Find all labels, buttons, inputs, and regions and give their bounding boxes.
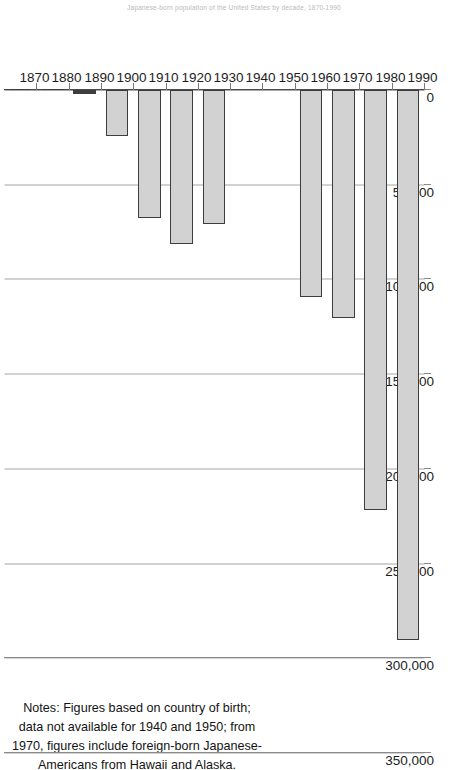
value-axis-tick-label: 250,000 [354, 564, 434, 579]
value-axis-tick [424, 563, 431, 564]
value-axis-tick [424, 184, 431, 185]
page-title: Japanese-born population of the United S… [127, 4, 341, 11]
bar [73, 90, 96, 94]
bar [41, 89, 64, 91]
bar [364, 90, 387, 510]
value-axis-tick [424, 89, 431, 90]
value-axis-tick [424, 752, 431, 753]
bar [170, 90, 193, 244]
bar [9, 89, 32, 91]
value-axis-tick [424, 468, 431, 469]
value-axis-tick-label: 300,000 [354, 658, 434, 673]
notes-frame-rule [4, 752, 424, 753]
rotated-plot-wrapper: 050,000100,000150,000200,000250,000300,0… [4, 11, 424, 753]
notes-frame-rule [4, 657, 424, 658]
category-axis-label-1990: 1990 [407, 70, 459, 85]
value-axis-tick [424, 657, 431, 658]
chart-canvas: Japanese-born population of the United S… [0, 0, 468, 770]
value-axis-tick-label: 350,000 [354, 753, 434, 768]
bar [397, 90, 420, 640]
plot-area: 050,000100,000150,000200,000250,000300,0… [4, 11, 424, 753]
value-axis-tick [424, 278, 431, 279]
bar [300, 90, 323, 297]
value-axis-tick [424, 373, 431, 374]
bar [203, 90, 226, 224]
bar [106, 90, 129, 136]
bar [332, 90, 355, 318]
bar [138, 90, 161, 218]
figure-notes: Notes: Figures based on country of birth… [12, 699, 262, 770]
